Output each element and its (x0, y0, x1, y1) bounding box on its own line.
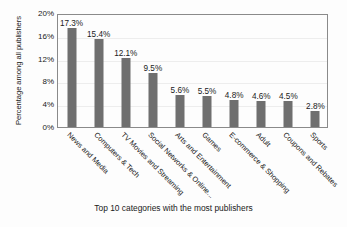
bar (230, 100, 239, 127)
x-label-slot: Sports (301, 128, 328, 198)
y-axis-tick-label: 20% (30, 10, 54, 18)
bar-slot: 15.4% (85, 15, 112, 127)
x-axis-category-label: Adult (255, 131, 273, 149)
bar-chart: Percentage among all publishers 0%4%8%12… (0, 0, 347, 227)
bar-value-label: 5.5% (198, 87, 217, 96)
y-axis-tick-label: 12% (30, 56, 54, 64)
x-axis-category-label: Sports (309, 131, 330, 152)
bar (121, 58, 130, 127)
bar-slot: 9.5% (139, 15, 166, 127)
bar-value-label: 5.6% (171, 86, 190, 95)
bar-value-label: 12.1% (114, 49, 137, 58)
y-axis-title: Percentage among all publishers (14, 6, 23, 136)
bar (311, 111, 320, 127)
bar-value-label: 9.5% (144, 64, 163, 73)
x-label-slot: Coupons and Rebates (274, 128, 301, 198)
bar (257, 101, 266, 127)
y-axis-tick-label: 0% (30, 124, 54, 132)
y-axis-tick-label: 4% (30, 101, 54, 109)
x-axis-category-labels: News and MediaComputers & TechTV Movies … (57, 128, 328, 198)
bar-slot: 4.5% (275, 15, 302, 127)
bar (67, 28, 76, 127)
x-label-slot: Arts and Entertainment (165, 128, 192, 198)
x-label-slot: Social Networks & Online... (138, 128, 165, 198)
bar (203, 96, 212, 127)
bar-value-label: 4.8% (225, 91, 244, 100)
bar-value-label: 15.4% (87, 30, 110, 39)
x-label-slot: Games (193, 128, 220, 198)
bar-slot: 4.8% (221, 15, 248, 127)
x-label-slot: TV Movies and Streaming (111, 128, 138, 198)
y-axis-tick-labels: 0%4%8%12%16%20% (28, 0, 54, 227)
bar-slot: 17.3% (58, 15, 85, 127)
bar (175, 95, 184, 127)
bar-slot: 5.6% (166, 15, 193, 127)
y-axis-tick-label: 16% (30, 33, 54, 41)
bar-slot: 12.1% (112, 15, 139, 127)
x-label-slot: E-commerce & Shopping (220, 128, 247, 198)
x-label-slot: News and Media (57, 128, 84, 198)
bar-value-label: 17.3% (60, 19, 83, 28)
bar-value-label: 4.6% (252, 92, 271, 101)
bar-slot: 5.5% (194, 15, 221, 127)
bar-slot: 4.6% (248, 15, 275, 127)
x-label-slot: Computers & Tech (84, 128, 111, 198)
bar-series: 17.3%15.4%12.1%9.5%5.6%5.5%4.8%4.6%4.5%2… (58, 15, 327, 127)
bar (94, 39, 103, 127)
plot-area: 17.3%15.4%12.1%9.5%5.6%5.5%4.8%4.6%4.5%2… (57, 14, 328, 128)
bar (148, 73, 157, 127)
bar (284, 101, 293, 127)
bar-slot: 2.8% (302, 15, 329, 127)
bar-value-label: 2.8% (306, 102, 325, 111)
x-label-slot: Adult (247, 128, 274, 198)
x-axis-title: Top 10 categories with the most publishe… (0, 203, 347, 213)
y-axis-tick-label: 8% (30, 78, 54, 86)
bar-value-label: 4.5% (279, 92, 298, 101)
